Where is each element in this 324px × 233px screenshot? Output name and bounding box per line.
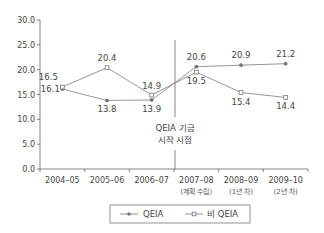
non-qeia-data-label: 19.5 bbox=[187, 76, 206, 86]
qeia-data-label: 16.1 bbox=[41, 84, 60, 94]
qeia-data-label: 20.6 bbox=[187, 52, 206, 62]
y-tick-label: 30.0 bbox=[17, 16, 35, 25]
non-qeia-marker bbox=[60, 85, 64, 89]
y-tick-label: 0.0 bbox=[22, 165, 35, 174]
y-tick-label: 15.0 bbox=[17, 91, 35, 100]
line-chart: 30.025.020.015.010.05.00.0 2004–052005–0… bbox=[0, 0, 324, 233]
non-qeia-line bbox=[62, 68, 285, 98]
qeia-data-label: 13.8 bbox=[98, 104, 117, 114]
qeia-marker bbox=[239, 63, 243, 67]
non-qeia-data-label: 20.4 bbox=[98, 53, 117, 63]
y-ticks: 30.025.020.015.010.05.00.0 bbox=[17, 16, 40, 174]
non-qeia-data-label: 15.4 bbox=[232, 97, 251, 107]
y-tick-label: 5.0 bbox=[22, 140, 35, 149]
x-ticks: 2004–052005–062006–072007–08(계획 수립)2008–… bbox=[40, 169, 308, 196]
annotation-line2: 시작 시점 bbox=[158, 135, 193, 145]
legend-non-qeia-marker-icon bbox=[192, 212, 196, 216]
non-qeia-data-label: 16.5 bbox=[39, 72, 58, 82]
qeia-marker bbox=[150, 98, 154, 102]
x-tick-label: 2004–05 bbox=[45, 176, 80, 185]
x-tick-label: 2006–07 bbox=[134, 176, 169, 185]
non-qeia-marker bbox=[150, 93, 154, 97]
x-tick-sublabel: (1년 차) bbox=[229, 187, 253, 196]
y-tick-label: 10.0 bbox=[17, 115, 35, 124]
qeia-marker bbox=[105, 99, 109, 103]
non-qeia-marker bbox=[284, 96, 288, 100]
qeia-marker bbox=[194, 65, 198, 69]
x-tick-sublabel: (계획 수립) bbox=[180, 187, 212, 196]
qeia-data-label: 21.2 bbox=[276, 49, 295, 59]
qeia-data-label: 13.9 bbox=[142, 104, 161, 114]
x-tick-label: 2008–09 bbox=[224, 176, 259, 185]
non-qeia-data-label: 14.9 bbox=[142, 81, 161, 91]
qeia-line bbox=[62, 64, 285, 101]
legend-non-qeia-label: 비 QEIA bbox=[207, 209, 238, 219]
non-qeia-marker bbox=[105, 66, 109, 70]
x-tick-label: 2005–06 bbox=[90, 176, 125, 185]
x-tick-sublabel: (2년 차) bbox=[274, 187, 298, 196]
annotation-line1: QEIA 기금 bbox=[155, 123, 194, 133]
legend-qeia-marker-icon bbox=[127, 212, 131, 216]
x-tick-label: 2009–10 bbox=[268, 176, 303, 185]
x-tick-label: 2007–08 bbox=[179, 176, 214, 185]
qeia-marker bbox=[284, 62, 288, 66]
non-qeia-marker bbox=[239, 91, 243, 95]
qeia-data-label: 20.9 bbox=[232, 50, 251, 60]
y-tick-label: 25.0 bbox=[17, 41, 35, 50]
y-tick-label: 20.0 bbox=[17, 66, 35, 75]
legend-qeia-label: QEIA bbox=[143, 209, 164, 219]
non-qeia-data-label: 14.4 bbox=[276, 101, 295, 111]
non-qeia-marker bbox=[194, 70, 198, 74]
series-group: 16.113.813.920.620.921.216.520.414.919.5… bbox=[39, 49, 295, 115]
